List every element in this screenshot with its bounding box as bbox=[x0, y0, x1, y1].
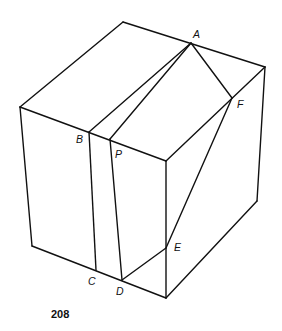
label-P: P bbox=[115, 148, 122, 160]
line-D-E bbox=[122, 248, 166, 280]
cube-diagram: A F B P E C D 208 bbox=[0, 0, 282, 331]
edge-right-vertical bbox=[257, 67, 265, 201]
line-A-F bbox=[191, 43, 232, 98]
section-lines bbox=[89, 43, 232, 280]
label-A: A bbox=[192, 28, 200, 40]
line-P-D bbox=[110, 139, 122, 280]
line-E-F bbox=[166, 98, 232, 248]
line-A-B bbox=[89, 43, 191, 132]
page-number: 208 bbox=[51, 308, 69, 320]
line-A-P bbox=[110, 43, 191, 139]
edge-bottom-front bbox=[32, 246, 166, 298]
edge-left-vertical bbox=[20, 107, 32, 246]
label-C: C bbox=[88, 275, 96, 287]
label-E: E bbox=[174, 241, 182, 253]
line-B-C bbox=[89, 132, 96, 270]
edge-top-right bbox=[166, 67, 265, 161]
label-D: D bbox=[116, 285, 124, 297]
label-B: B bbox=[76, 133, 83, 145]
edge-top-front bbox=[20, 107, 166, 161]
cube-edges bbox=[20, 22, 265, 298]
edge-top-back-left bbox=[20, 22, 123, 107]
label-F: F bbox=[237, 98, 244, 110]
